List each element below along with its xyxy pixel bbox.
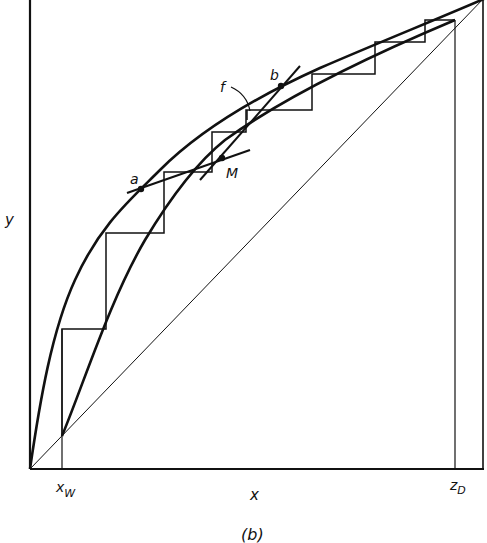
diagonal-line (30, 0, 486, 469)
stage-diagram: a M b f y x xW zD (b) (0, 0, 487, 543)
x-w-tick-label: xW (55, 479, 76, 500)
line-m-b (200, 66, 300, 180)
label-a: a (130, 171, 139, 187)
staircase (62, 20, 455, 436)
label-f: f (220, 79, 227, 95)
point-m-marker (219, 155, 225, 161)
z-d-tick-label: zD (449, 477, 466, 497)
y-axis-label: y (4, 211, 15, 229)
figure-caption: (b) (241, 525, 264, 543)
point-b-marker (278, 83, 284, 89)
point-a-marker (138, 186, 144, 192)
f-pointer-arrow (231, 87, 250, 111)
operating-curve (62, 20, 455, 436)
label-m: M (226, 165, 238, 181)
label-b: b (270, 67, 279, 83)
x-axis-label: x (249, 486, 259, 504)
